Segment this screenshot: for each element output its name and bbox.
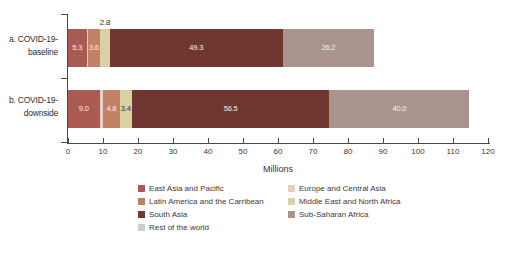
value-label-latin-america-and-the-carribean: 3.6 <box>88 43 101 53</box>
x-axis-tick <box>383 138 384 143</box>
category-label-line: baseline <box>0 46 58 59</box>
category-label-downside: b. COVID-19- downside <box>0 94 58 120</box>
legend-swatch-rest-of-the-world <box>138 224 145 231</box>
legend-swatch-sub-saharan-africa <box>288 211 295 218</box>
x-axis-tick-label: 20 <box>123 147 153 156</box>
x-axis-tick-label: 50 <box>228 147 258 156</box>
value-label-south-asia: 49.3 <box>110 43 283 53</box>
x-axis-tick <box>348 138 349 143</box>
x-axis-tick <box>103 138 104 143</box>
x-axis-tick-label: 110 <box>438 147 468 156</box>
x-axis-tick <box>453 138 454 143</box>
value-label-sub-saharan-africa: 26.2 <box>283 43 375 53</box>
value-label-south-asia: 56.5 <box>132 104 330 114</box>
legend-label: Europe and Central Asia <box>299 183 386 194</box>
x-axis-tick-label: 0 <box>53 147 83 156</box>
x-axis-tick-label: 30 <box>158 147 188 156</box>
x-axis-tick-label: 120 <box>473 147 503 156</box>
x-axis-tick-label: 100 <box>403 147 433 156</box>
value-label-latin-america-and-the-carribean: 4.8 <box>103 104 120 114</box>
x-axis-tick <box>68 138 69 143</box>
bar-segment-middle-east-and-north-africa <box>100 29 110 67</box>
category-label-line: b. COVID-19- <box>0 94 58 107</box>
value-label-east-asia-and-pacific: 5.3 <box>68 43 87 53</box>
category-label-line: a. COVID-19- <box>0 33 58 46</box>
x-axis-tick-label: 90 <box>368 147 398 156</box>
category-tick-top <box>61 14 68 15</box>
legend-label: East Asia and Pacific <box>149 183 224 194</box>
legend-label: Sub-Saharan Africa <box>299 209 368 220</box>
x-axis-tick <box>488 138 489 143</box>
legend-swatch-latin-america-and-the-carribean <box>138 198 145 205</box>
x-axis-tick <box>208 138 209 143</box>
x-axis-tick-label: 10 <box>88 147 118 156</box>
legend-label: Middle East and North Africa <box>299 196 400 207</box>
legend-swatch-south-asia <box>138 211 145 218</box>
legend-label: Rest of the world <box>149 222 209 233</box>
x-axis-tick-label: 80 <box>333 147 363 156</box>
x-axis-tick-label: 60 <box>263 147 293 156</box>
legend-label: Latin America and the Carribean <box>149 196 264 207</box>
value-label-sub-saharan-africa: 40.0 <box>329 104 469 114</box>
category-label-line: downside <box>0 107 58 120</box>
x-axis-title: Millions <box>238 164 318 174</box>
x-axis-tick <box>278 138 279 143</box>
legend-swatch-east-asia-and-pacific <box>138 185 145 192</box>
x-axis-line <box>67 143 490 144</box>
x-axis-tick <box>173 138 174 143</box>
x-axis-tick-label: 70 <box>298 147 328 156</box>
value-label-middle-east-and-north-africa: 2.8 <box>93 18 117 28</box>
category-tick-mid <box>61 78 68 79</box>
value-label-east-asia-and-pacific: 9.0 <box>68 104 100 114</box>
covid-new-poor-chart: 5.33.62.849.326.29.04.83.456.540.0010203… <box>0 0 508 254</box>
x-axis-tick-label: 40 <box>193 147 223 156</box>
category-label-baseline: a. COVID-19- baseline <box>0 33 58 59</box>
x-axis-tick <box>243 138 244 143</box>
legend-label: South Asia <box>149 209 187 220</box>
x-axis-tick <box>418 138 419 143</box>
value-label-middle-east-and-north-africa: 3.4 <box>120 104 132 114</box>
legend-swatch-middle-east-and-north-africa <box>288 198 295 205</box>
legend-swatch-europe-and-central-asia <box>288 185 295 192</box>
x-axis-tick <box>138 138 139 143</box>
x-axis-tick <box>313 138 314 143</box>
